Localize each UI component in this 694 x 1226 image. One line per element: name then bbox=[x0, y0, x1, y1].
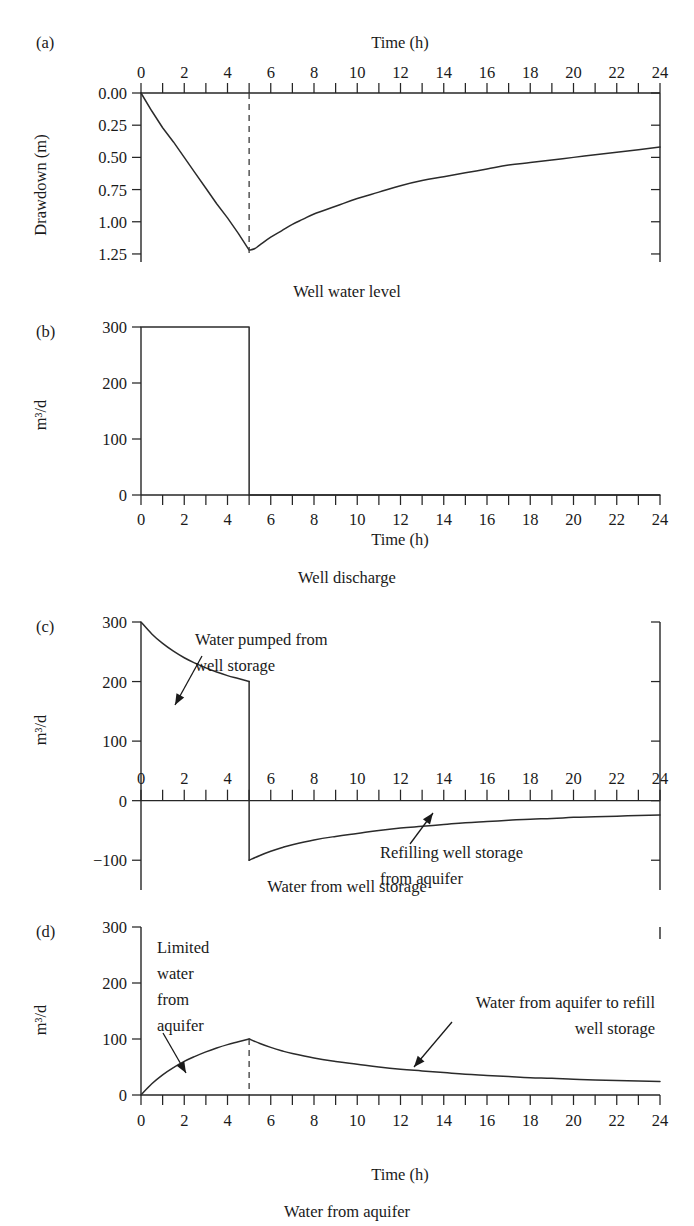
panel-d-xticklabel: 10 bbox=[349, 1111, 366, 1130]
panel-b-xticklabel: 20 bbox=[565, 510, 582, 529]
panel-a-caption: Well water level bbox=[293, 282, 401, 301]
panel-c-xticklabel: 24 bbox=[652, 769, 669, 788]
panel-c-xticklabel: 12 bbox=[392, 769, 409, 788]
panel-a-svg: (a) Time (h) Drawdown (m) 02468101214161… bbox=[0, 0, 694, 310]
panel-d-xticklabel: 2 bbox=[180, 1111, 188, 1130]
panel-b-xticklabel: 0 bbox=[137, 510, 145, 529]
panel-c-xticklabel: 0 bbox=[137, 769, 145, 788]
panel-d-xticklabel: 12 bbox=[392, 1111, 409, 1130]
panel-a-xticklabel: 10 bbox=[349, 63, 366, 82]
panel-c-xticklabel: 6 bbox=[267, 769, 275, 788]
panel-d-annotation-limited-line-0: Limited bbox=[157, 938, 210, 957]
panel-b-svg: (b) m³/d 0246810121416182022240100200300… bbox=[0, 305, 694, 590]
panel-c-xticklabel: 10 bbox=[349, 769, 366, 788]
panel-d-arrow-limited-head bbox=[177, 1061, 186, 1073]
panel-c-yticklabel: −100 bbox=[93, 851, 127, 870]
panel-b-xticklabel: 8 bbox=[310, 510, 318, 529]
panel-a-xticklabel: 12 bbox=[392, 63, 409, 82]
panel-a-xticklabel: 6 bbox=[267, 63, 275, 82]
panel-b-xticklabel: 6 bbox=[267, 510, 275, 529]
panel-d-annotation-limited-line-1: water bbox=[157, 964, 194, 983]
panel-d-xticklabel: 16 bbox=[479, 1111, 496, 1130]
panel-d-svg: (d) m³/d 0246810121416182022240100200300… bbox=[0, 905, 694, 1225]
panel-d-xticklabel: 22 bbox=[609, 1111, 626, 1130]
panel-c-arrow-pumped-head bbox=[175, 693, 184, 705]
panel-b-yticklabel: 300 bbox=[102, 318, 127, 337]
panel-a-yticklabel: 0.25 bbox=[98, 116, 127, 135]
panel-c-label: (c) bbox=[36, 617, 54, 636]
panel-a-yticklabel: 0.00 bbox=[98, 84, 127, 103]
panel-b-xticklabel: 24 bbox=[652, 510, 669, 529]
panel-d-y-title: m³/d bbox=[31, 1004, 50, 1035]
panel-b-label: (b) bbox=[36, 322, 55, 341]
panel-d-xticklabel: 4 bbox=[223, 1111, 231, 1130]
panel-c-annotation-refilling-line-0: Refilling well storage bbox=[380, 843, 523, 862]
panel-d-annotation-refill-line-1: well storage bbox=[575, 1019, 655, 1038]
panel-a-yticklabel: 0.75 bbox=[98, 181, 127, 200]
panel-a-yticklabel: 1.00 bbox=[98, 213, 127, 232]
panel-a-label: (a) bbox=[36, 33, 54, 52]
panel-d-annotation-limited-line-3: aquifer bbox=[157, 1016, 204, 1035]
panel-a-xticklabel: 2 bbox=[180, 63, 188, 82]
figure-well-hydraulics: (a) Time (h) Drawdown (m) 02468101214161… bbox=[0, 0, 694, 1226]
panel-d-yticklabel: 300 bbox=[102, 918, 127, 937]
panel-a-xticklabel: 20 bbox=[565, 63, 582, 82]
panel-b-yticklabel: 0 bbox=[119, 486, 127, 505]
panel-d-arrow-refill-head bbox=[414, 1056, 425, 1067]
panel-c-xticklabel: 20 bbox=[565, 769, 582, 788]
panel-c-caption: Water from well storage bbox=[267, 877, 426, 896]
panel-c-xticklabel: 2 bbox=[180, 769, 188, 788]
panel-d-label: (d) bbox=[36, 922, 55, 941]
panel-d-xticklabel: 18 bbox=[522, 1111, 539, 1130]
panel-c-svg: (c) m³/d 024681012141618202224−100010020… bbox=[0, 600, 694, 900]
panel-c-xticklabel: 8 bbox=[310, 769, 318, 788]
panel-a-xticklabel: 8 bbox=[310, 63, 318, 82]
panel-a: (a) Time (h) Drawdown (m) 02468101214161… bbox=[0, 0, 694, 310]
panel-c: (c) m³/d 024681012141618202224−100010020… bbox=[0, 600, 694, 900]
panel-d-curve-decay bbox=[249, 1039, 660, 1082]
panel-d-plot: 0246810121416182022240100200300Limitedwa… bbox=[102, 918, 668, 1130]
panel-c-xticklabel: 4 bbox=[223, 769, 231, 788]
panel-d-annotation-refill-line-0: Water from aquifer to refill bbox=[476, 993, 656, 1012]
panel-d-x-title: Time (h) bbox=[371, 1165, 429, 1184]
panel-a-yticklabel: 0.50 bbox=[98, 148, 127, 167]
panel-c-yticklabel: 300 bbox=[102, 613, 127, 632]
panel-c-plot: 024681012141618202224−1000100200300Water… bbox=[93, 613, 668, 890]
panel-d-xticklabel: 20 bbox=[565, 1111, 582, 1130]
panel-c-annotation-pumped-line-0: Water pumped from bbox=[195, 630, 328, 649]
panel-d-xticklabel: 24 bbox=[652, 1111, 669, 1130]
panel-b-xticklabel: 4 bbox=[223, 510, 231, 529]
panel-d-yticklabel: 200 bbox=[102, 974, 127, 993]
panel-b-xticklabel: 12 bbox=[392, 510, 409, 529]
panel-a-yticklabel: 1.25 bbox=[98, 245, 127, 264]
panel-b-xticklabel: 18 bbox=[522, 510, 539, 529]
panel-d-annotation-limited-line-2: from bbox=[157, 990, 189, 1009]
panel-a-xticklabel: 16 bbox=[479, 63, 496, 82]
panel-a-xticklabel: 14 bbox=[436, 63, 453, 82]
panel-c-annotation-pumped-line-1: well storage bbox=[195, 656, 275, 675]
panel-b-xticklabel: 22 bbox=[609, 510, 626, 529]
panel-d-caption: Water from aquifer bbox=[284, 1202, 411, 1221]
panel-d-curve-rise bbox=[141, 1039, 249, 1095]
panel-c-xticklabel: 14 bbox=[436, 769, 453, 788]
panel-c-xticklabel: 16 bbox=[479, 769, 496, 788]
panel-a-y-title: Drawdown (m) bbox=[31, 134, 50, 235]
panel-b-plot: 0246810121416182022240100200300 bbox=[102, 318, 668, 529]
panel-b-xticklabel: 16 bbox=[479, 510, 496, 529]
panel-d-yticklabel: 100 bbox=[102, 1030, 127, 1049]
panel-b-xticklabel: 2 bbox=[180, 510, 188, 529]
panel-d-xticklabel: 14 bbox=[436, 1111, 453, 1130]
panel-d-xticklabel: 8 bbox=[310, 1111, 318, 1130]
panel-b-caption: Well discharge bbox=[298, 568, 396, 587]
panel-a-xticklabel: 18 bbox=[522, 63, 539, 82]
panel-c-xticklabel: 18 bbox=[522, 769, 539, 788]
panel-d: (d) m³/d 0246810121416182022240100200300… bbox=[0, 905, 694, 1225]
panel-c-yticklabel: 100 bbox=[102, 732, 127, 751]
panel-c-xticklabel: 22 bbox=[609, 769, 626, 788]
panel-a-plot: 0246810121416182022240.000.250.500.751.0… bbox=[98, 63, 668, 264]
panel-a-xticklabel: 0 bbox=[137, 63, 145, 82]
panel-d-xticklabel: 0 bbox=[137, 1111, 145, 1130]
panel-b-yticklabel: 100 bbox=[102, 430, 127, 449]
panel-c-yticklabel: 0 bbox=[119, 792, 127, 811]
panel-b-y-title: m³/d bbox=[31, 399, 50, 430]
